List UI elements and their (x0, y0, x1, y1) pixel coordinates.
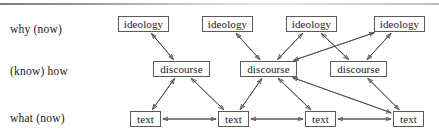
edge-discourse-2-to-text-4 (293, 78, 391, 113)
edge-discourse-1-to-text-2 (191, 78, 223, 109)
edge-discourse-3-to-text-4 (368, 78, 399, 109)
edge-ideology-4-to-discourse-2 (294, 33, 375, 61)
edge-discourse-2-to-text-2 (240, 79, 262, 110)
edge-ideology-2-to-discourse-2 (236, 33, 260, 59)
row-label-what: what (now) (10, 112, 65, 124)
top-rule-divider (0, 3, 439, 5)
node-discourse-2[interactable]: discourse (240, 61, 297, 77)
edge-ideology-4-to-discourse-3 (367, 33, 391, 59)
edge-discourse-1-to-text-1 (152, 79, 174, 110)
edge-discourse-2-to-text-4 (293, 78, 391, 113)
edge-ideology-2-to-discourse-2 (236, 33, 260, 59)
edge-ideology-3-to-discourse-2 (278, 33, 303, 59)
node-ideology-1[interactable]: ideology (118, 16, 169, 32)
edge-ideology-1-to-discourse-1 (152, 34, 174, 60)
node-discourse-1[interactable]: discourse (153, 61, 210, 77)
edge-ideology-3-to-discourse-3 (321, 33, 348, 59)
edge-discourse-2-to-text-3 (278, 78, 310, 109)
edge-discourse-1-to-text-1 (152, 79, 174, 110)
edge-ideology-3-to-discourse-2 (278, 33, 303, 59)
node-discourse-3[interactable]: discourse (330, 61, 387, 77)
node-ideology-2[interactable]: ideology (202, 16, 253, 32)
node-text-2[interactable]: text (218, 111, 249, 127)
node-ideology-4[interactable]: ideology (374, 16, 425, 32)
edge-ideology-4-to-discourse-2 (294, 33, 375, 61)
node-text-4[interactable]: text (393, 111, 424, 127)
edge-discourse-2-to-text-3 (278, 78, 310, 109)
row-label-how: (know) how (10, 65, 68, 77)
node-text-3[interactable]: text (305, 111, 336, 127)
edge-discourse-1-to-text-2 (191, 78, 223, 109)
edge-discourse-2-to-text-2 (240, 79, 262, 110)
diagram-canvas: why (now) (know) how what (now) ideology… (0, 0, 439, 136)
row-label-why: why (now) (10, 23, 62, 35)
edge-discourse-3-to-text-4 (368, 78, 399, 109)
node-ideology-3[interactable]: ideology (286, 16, 337, 32)
edge-ideology-4-to-discourse-3 (367, 33, 391, 59)
edge-ideology-3-to-discourse-3 (321, 33, 348, 59)
edge-ideology-1-to-discourse-1 (152, 34, 174, 60)
node-text-1[interactable]: text (130, 111, 161, 127)
